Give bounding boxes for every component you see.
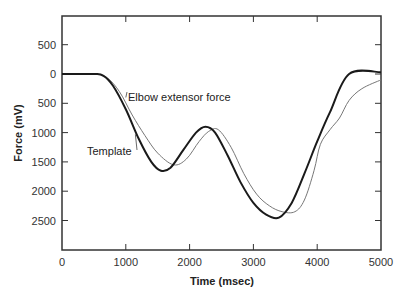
y-tick-label: 1000: [32, 127, 56, 139]
y-tick-label: 500: [38, 39, 56, 51]
force-time-chart: 50005001000150020002500 0100020003000400…: [0, 0, 404, 296]
y-tick-label: 500: [38, 97, 56, 109]
x-tick-label: 1000: [114, 256, 138, 268]
y-tick-label: 1500: [32, 156, 56, 168]
x-tick-label: 0: [59, 256, 65, 268]
x-tick-label: 3000: [241, 256, 265, 268]
leader-elbow-extensor-force: [126, 92, 127, 97]
y-tick-label: 2500: [32, 215, 56, 227]
x-tick-label: 2000: [177, 256, 201, 268]
annotation-elbow-extensor-force: Elbow extensor force: [128, 91, 231, 103]
annotation-template: Template: [87, 145, 132, 157]
y-axis-ticks: 50005001000150020002500: [32, 39, 381, 227]
y-axis-title: Force (mV): [12, 104, 24, 162]
x-tick-label: 4000: [305, 256, 329, 268]
x-axis-title: Time (msec): [190, 275, 254, 287]
x-tick-label: 5000: [369, 256, 393, 268]
y-tick-label: 0: [50, 68, 56, 80]
x-axis-ticks: 010002000300040005000: [59, 16, 393, 268]
y-tick-label: 2000: [32, 185, 56, 197]
